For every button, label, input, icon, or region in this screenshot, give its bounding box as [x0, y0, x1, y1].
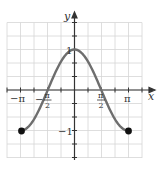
tick-label-pi: π [124, 93, 131, 104]
tick-label-neg-half-pi: − π 2 [35, 91, 52, 110]
tick-label-neg-pi: −π [10, 93, 25, 104]
tick-label-one: 1 [66, 45, 72, 56]
svg-text:2: 2 [45, 101, 50, 110]
endpoint-right [125, 128, 132, 135]
cosine-graph: y x −π π − π 2 π 2 1 −1 [0, 0, 164, 176]
svg-text:π: π [45, 91, 50, 100]
x-axis-label: x [148, 90, 155, 103]
y-axis-arrow-icon [72, 12, 77, 18]
svg-text:−: − [35, 94, 43, 105]
y-axis-label: y [63, 10, 71, 23]
tick-label-neg-one: −1 [58, 126, 73, 137]
endpoint-left [18, 128, 25, 135]
axes [7, 12, 155, 160]
svg-text:2: 2 [99, 101, 104, 110]
svg-text:π: π [98, 91, 103, 100]
